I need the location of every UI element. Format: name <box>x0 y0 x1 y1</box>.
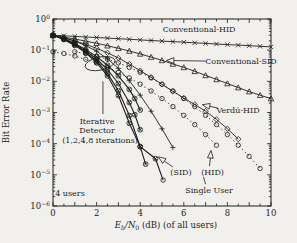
y-tick-label: 10−3 <box>30 106 50 118</box>
single-user-label-text: Single User <box>185 186 233 195</box>
iterative-label-line3-text: (1,2,4,8 iterations) <box>62 136 138 145</box>
sid-label-text: (SID) <box>170 168 191 177</box>
verdu-hid-label-text: Verdú-HID <box>216 106 260 115</box>
x-axis-title: Eb​/N0​ (dB) (of all users) <box>114 220 217 231</box>
conventional-hid-label: Conventional-HID <box>163 25 236 34</box>
iterative-label-line3: (1,2,4,8 iterations) <box>62 136 138 145</box>
x-tick-label: 2 <box>94 208 99 218</box>
hid-label-text: (HID) <box>201 168 224 177</box>
y-tick-label: 10−1 <box>30 44 50 56</box>
iterative-label-line1-text: Iterative <box>80 117 115 126</box>
conventional-sid-label-text: Conventional-SID <box>205 57 276 66</box>
conventional-hid-label-text: Conventional-HID <box>163 25 236 34</box>
y-tick-label: 10−5 <box>30 168 50 180</box>
x-tick-label: 4 <box>137 208 142 218</box>
iterative-label-line2: Detector <box>79 126 115 135</box>
y-tick-label: 10−2 <box>30 75 50 87</box>
x-tick-label: 8 <box>225 208 230 218</box>
conventional-sid-label: Conventional-SID <box>166 57 276 66</box>
ber-figure: 024681010010−110−210−310−410−510−6Eb​/N0… <box>0 0 297 243</box>
x-tick-label: 10 <box>266 208 277 218</box>
sid-label: (SID) <box>158 157 191 177</box>
x-tick-label: 0 <box>50 208 55 218</box>
single-user-label: Single User <box>185 186 233 195</box>
verdu-hid-label: Verdú-HID <box>202 103 259 114</box>
iterative-label-line1: Iterative <box>80 117 115 126</box>
single-user-pointer <box>203 177 205 184</box>
iterative-label-line2-text: Detector <box>79 126 115 135</box>
y-axis-title: Bit Error Rate <box>1 82 11 143</box>
users-note-text: 4 users <box>55 189 85 198</box>
x-tick-label: 6 <box>181 208 186 218</box>
users-note: 4 users <box>55 189 85 198</box>
iterations-ellipse <box>84 54 117 73</box>
y-tick-label: 10−6 <box>30 200 50 212</box>
ber-chart: 024681010010−110−210−310−410−510−6Eb​/N0… <box>0 0 297 243</box>
y-tick-label: 100 <box>35 13 50 25</box>
hid-label: (HID) <box>201 151 224 178</box>
ber-plot-svg: 024681010010−110−210−310−410−510−6Eb​/N0… <box>0 0 297 243</box>
y-tick-label: 10−4 <box>30 137 50 149</box>
